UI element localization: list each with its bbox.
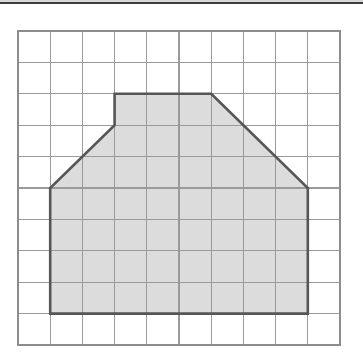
grid-polygon-figure: [0, 0, 363, 360]
figure-root: [0, 0, 363, 360]
